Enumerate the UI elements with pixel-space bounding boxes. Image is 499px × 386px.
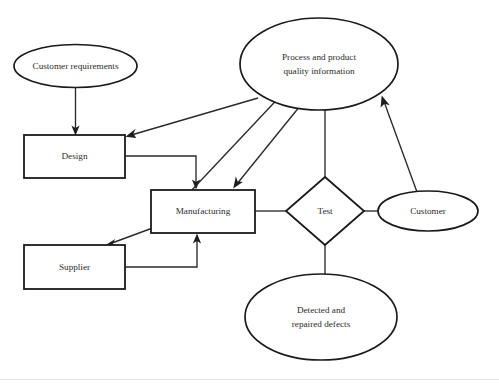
node-process-quality-information[interactable]: Process and product quality information [240, 18, 398, 110]
node-supplier[interactable]: Supplier [24, 245, 125, 289]
node-customer-requirements-label: Customer requirements [33, 61, 119, 71]
node-customer[interactable]: Customer [378, 191, 478, 231]
node-customer-requirements[interactable]: Customer requirements [14, 45, 137, 88]
node-design-label: Design [61, 151, 87, 161]
edge-quality-information-to-design [126, 98, 259, 138]
edge-quality-information-to-manufacturing [233, 109, 298, 189]
diagram-canvas: Customer requirements Process and produc… [0, 0, 499, 386]
node-manufacturing[interactable]: Manufacturing [151, 190, 255, 233]
edge-design-to-manufacturing [125, 156, 200, 190]
node-process-quality-information-label-line2: quality information [283, 66, 355, 76]
node-supplier-label: Supplier [59, 262, 90, 272]
node-design[interactable]: Design [24, 135, 125, 178]
edge-customer-requirements-to-design [71, 88, 79, 136]
node-test[interactable]: Test [286, 177, 364, 245]
node-test-label: Test [317, 206, 333, 216]
node-customer-label: Customer [410, 206, 446, 216]
node-detected-repaired-defects[interactable]: Detected and repaired defects [245, 274, 397, 360]
node-detected-repaired-defects-label-line1: Detected and [297, 305, 346, 315]
node-detected-repaired-defects-label-line2: repaired defects [292, 319, 351, 329]
node-manufacturing-label: Manufacturing [176, 206, 231, 216]
edge-customer-to-quality-information [381, 96, 417, 193]
diagram-svg: Customer requirements Process and produc… [0, 0, 499, 386]
edge-supplier-to-manufacturing [125, 234, 201, 268]
node-process-quality-information-label-line1: Process and product [282, 52, 356, 62]
